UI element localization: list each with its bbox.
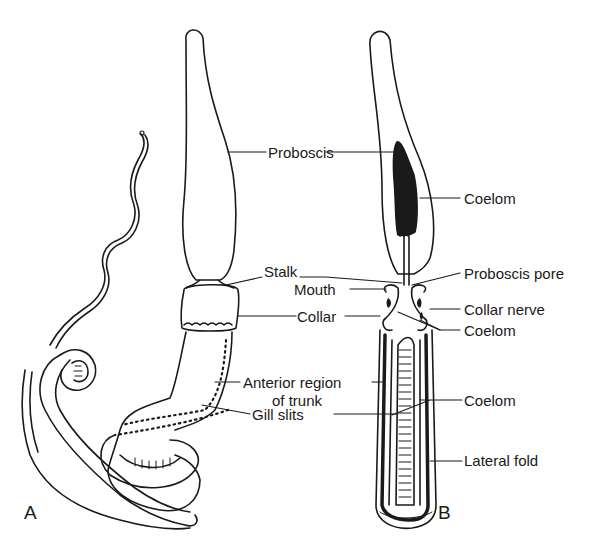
label-stalk: Stalk xyxy=(264,264,297,279)
label-collar-nerve: Collar nerve xyxy=(464,302,545,317)
label-coelom-proboscis: Coelom xyxy=(464,191,516,206)
proboscis-coelom-b xyxy=(393,142,417,236)
leader-lines xyxy=(202,152,462,461)
label-lateral-fold: Lateral fold xyxy=(464,453,538,468)
acorn-worm-diagram: Proboscis Coelom Stalk Proboscis pore Mo… xyxy=(0,0,610,543)
label-proboscis-pore: Proboscis pore xyxy=(464,266,564,281)
label-coelom-trunk: Coelom xyxy=(464,393,516,408)
label-collar: Collar xyxy=(297,309,336,324)
figure-a-worm xyxy=(22,30,239,529)
figure-b-section xyxy=(370,31,436,528)
label-mouth: Mouth xyxy=(294,282,336,297)
tail-a xyxy=(50,134,148,348)
panel-label-a: A xyxy=(24,503,37,522)
proboscis-a-outline xyxy=(183,30,236,280)
label-proboscis: Proboscis xyxy=(268,145,334,160)
label-gill-slits: Gill slits xyxy=(252,407,304,422)
label-coelom-collar: Coelom xyxy=(464,323,516,338)
collar-b-outline xyxy=(383,285,427,330)
panel-label-b: B xyxy=(438,503,451,522)
label-anterior-region: Anterior region xyxy=(243,375,341,390)
